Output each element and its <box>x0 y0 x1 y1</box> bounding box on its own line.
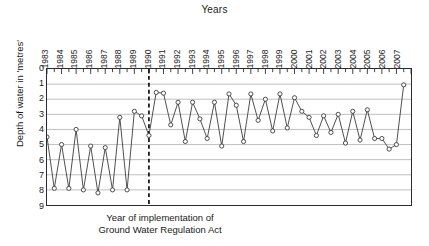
x-axis-tick-label: 1989 <box>129 49 138 68</box>
x-axis-tick-label: 1985 <box>70 49 79 68</box>
x-axis-tick-label: 1988 <box>114 49 123 68</box>
y-axis-tick-label: 3 <box>24 110 44 119</box>
y-axis-tick-labels: 0123456789 <box>22 62 44 212</box>
x-axis-tick-label: 1992 <box>172 49 181 68</box>
x-axis-tick-label: 2007 <box>392 49 401 68</box>
annotation-caption-line-1: Year of implementation of <box>40 212 280 224</box>
x-axis-tick-label: 2000 <box>290 49 299 68</box>
x-axis-tick-label: 1991 <box>158 49 167 68</box>
annotation-caption: Year of implementation of Ground Water R… <box>40 212 280 236</box>
x-axis-tick-label: 1994 <box>202 49 211 68</box>
x-axis-tick-label: 1986 <box>85 49 94 68</box>
x-axis-tick-label: 1984 <box>55 49 64 68</box>
y-axis-tick-label: 7 <box>24 171 44 180</box>
x-axis-tick-label: 1987 <box>99 49 108 68</box>
x-axis-tick-label: 1998 <box>260 49 269 68</box>
y-axis-tick-label: 8 <box>24 186 44 195</box>
chart-title: Years <box>0 4 429 15</box>
x-axis-tick-label: 1996 <box>231 49 240 68</box>
x-axis-tick-label: 2001 <box>304 49 313 68</box>
x-axis-tick-labels: 1983198419851986198719881989199019911992… <box>46 22 412 68</box>
x-axis-tick-label: 2006 <box>377 49 386 68</box>
y-axis-tick-label: 6 <box>24 156 44 165</box>
x-axis-tick-label: 1993 <box>187 49 196 68</box>
x-axis-tick-label: 1983 <box>41 49 50 68</box>
chart-figure: Years Depth of water in 'metres' 0123456… <box>0 0 429 246</box>
x-axis-tick-label: 2002 <box>319 49 328 68</box>
plot-area <box>46 68 412 206</box>
x-axis-tick-label: 1990 <box>143 49 152 68</box>
x-axis-tick-label: 2003 <box>334 49 343 68</box>
y-axis-tick-label: 2 <box>24 94 44 103</box>
y-axis-tick-label: 4 <box>24 125 44 134</box>
y-axis-tick-label: 1 <box>24 79 44 88</box>
x-axis-tick-label: 1995 <box>216 49 225 68</box>
x-axis-tick-label: 2004 <box>348 49 357 68</box>
x-axis-tick-label: 1999 <box>275 49 284 68</box>
y-axis-tick-label: 9 <box>24 202 44 211</box>
x-axis-tick-label: 2005 <box>363 49 372 68</box>
annotation-caption-line-2: Ground Water Regulation Act <box>40 224 280 236</box>
data-series-line <box>47 69 411 205</box>
x-axis-tick-label: 1997 <box>246 49 255 68</box>
y-axis-tick-label: 5 <box>24 140 44 149</box>
